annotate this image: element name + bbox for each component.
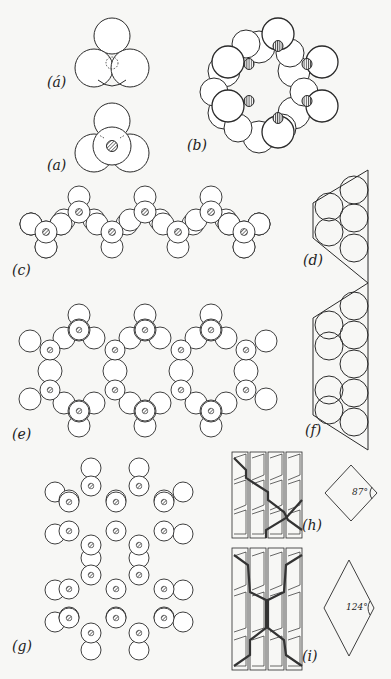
panel-a [75,103,149,172]
figure-drawing [0,0,391,679]
panel-i [232,548,302,670]
panel-f [313,283,368,450]
angle-i: 124° [346,602,368,612]
label-f: (f) [305,422,321,438]
label-b: (b) [187,137,207,153]
label-d: (d) [303,252,323,268]
label-h: (h) [302,517,322,533]
panel-e [19,304,277,437]
panel-b [200,18,338,153]
panel-c [20,186,270,258]
label-i: (i) [302,648,317,664]
label-g: (g) [12,638,32,654]
label-a-prime: (á) [47,74,66,90]
panel-h [232,452,302,538]
label-a: (a) [47,157,66,173]
label-e: (e) [12,426,31,442]
angle-h: 87° [352,487,368,497]
rhombus-h [325,465,377,521]
figure-canvas: (á) (a) (b) (c) (d) (e) (f) (g) (h) (i)… [0,0,391,679]
panel-g-units [59,476,174,643]
label-c: (c) [12,262,31,278]
panel-g [45,458,193,660]
panel-a-prime [75,18,149,87]
